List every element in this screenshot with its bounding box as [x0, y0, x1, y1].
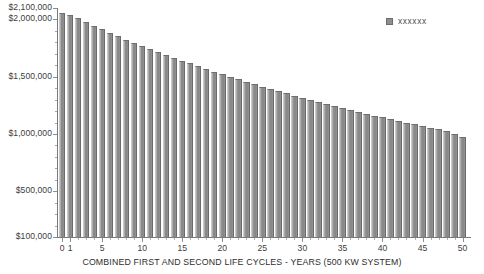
chart-legend: xxxxxx — [386, 16, 427, 26]
x-axis-minor-tick — [230, 238, 231, 240]
y-axis-tick-label: $2,100,000 — [0, 2, 52, 12]
x-axis-minor-tick — [318, 238, 319, 240]
x-axis-minor-tick — [294, 238, 295, 240]
bar — [235, 79, 241, 237]
bar-chart: $2,100,000$2,000,000$1,500,000$1,000,000… — [0, 0, 484, 274]
bar — [259, 87, 265, 237]
bar — [179, 61, 185, 237]
bar — [227, 77, 233, 237]
x-axis-minor-tick — [150, 238, 151, 240]
bar — [131, 43, 137, 237]
y-axis-tick-label: $500,000 — [0, 185, 52, 195]
bar — [195, 66, 201, 237]
bar — [419, 126, 425, 237]
bar — [323, 104, 329, 237]
x-axis-minor-tick — [439, 238, 440, 240]
x-axis-minor-tick — [238, 238, 239, 240]
bar — [443, 131, 449, 237]
bar — [107, 33, 113, 237]
legend-label: xxxxxx — [398, 16, 427, 26]
x-axis-tick-label: 45 — [418, 243, 428, 253]
bar — [211, 72, 217, 237]
bar — [403, 123, 409, 237]
x-axis-minor-tick — [118, 238, 119, 240]
x-axis-minor-tick — [415, 238, 416, 240]
bar — [75, 18, 81, 237]
bar — [435, 129, 441, 237]
bar — [291, 96, 297, 237]
x-axis-tick — [222, 238, 223, 242]
x-axis-tick — [142, 238, 143, 242]
y-axis-tick-label: $100,000 — [0, 231, 52, 241]
x-axis-minor-tick — [310, 238, 311, 240]
x-axis-tick-label: 20 — [218, 243, 228, 253]
bar — [91, 26, 97, 237]
x-axis-minor-tick — [374, 238, 375, 240]
x-axis-tick-label: 1 — [68, 243, 73, 253]
y-axis-tick-label: $1,000,000 — [0, 128, 52, 138]
bar — [67, 15, 73, 237]
bar — [347, 110, 353, 237]
x-axis-tick — [463, 238, 464, 242]
x-axis-minor-tick — [246, 238, 247, 240]
bar — [459, 137, 465, 237]
x-axis-tick-label: 15 — [177, 243, 187, 253]
x-axis-tick — [262, 238, 263, 242]
bar — [371, 116, 377, 237]
x-axis-tick-label: 25 — [258, 243, 268, 253]
bar — [251, 84, 257, 237]
bar — [203, 69, 209, 237]
x-axis-minor-tick — [198, 238, 199, 240]
bar — [387, 119, 393, 237]
bar — [99, 29, 105, 237]
x-axis-tick-label: 35 — [338, 243, 348, 253]
bar — [171, 58, 177, 237]
bar — [307, 100, 313, 237]
bar — [379, 117, 385, 237]
x-axis-minor-tick — [358, 238, 359, 240]
x-axis-minor-tick — [350, 238, 351, 240]
x-axis-minor-tick — [206, 238, 207, 240]
x-axis-tick-label: 40 — [378, 243, 388, 253]
x-axis-minor-tick — [270, 238, 271, 240]
x-axis-minor-tick — [455, 238, 456, 240]
x-axis-minor-tick — [158, 238, 159, 240]
x-axis-tick-label: 0 — [60, 243, 65, 253]
bar — [315, 102, 321, 237]
bar — [299, 98, 305, 237]
x-axis-minor-tick — [126, 238, 127, 240]
bar — [331, 106, 337, 237]
bar — [339, 108, 345, 237]
x-axis-tick — [302, 238, 303, 242]
x-axis-tick — [70, 238, 71, 242]
bar — [283, 93, 289, 237]
x-axis-minor-tick — [334, 238, 335, 240]
x-axis-minor-tick — [447, 238, 448, 240]
bar — [411, 124, 417, 237]
x-axis-minor-tick — [254, 238, 255, 240]
bar — [163, 55, 169, 237]
bar — [243, 82, 249, 237]
x-axis-minor-tick — [278, 238, 279, 240]
bar — [155, 52, 161, 237]
bar — [355, 112, 361, 237]
bar — [147, 49, 153, 237]
x-axis-minor-tick — [326, 238, 327, 240]
x-axis-minor-tick — [134, 238, 135, 240]
x-axis-minor-tick — [286, 238, 287, 240]
bar — [395, 121, 401, 237]
x-axis-minor-tick — [166, 238, 167, 240]
x-axis-title: COMBINED FIRST AND SECOND LIFE CYCLES - … — [0, 257, 484, 267]
bar — [219, 74, 225, 237]
x-axis-tick — [423, 238, 424, 242]
bar — [451, 134, 457, 237]
bar — [123, 40, 129, 238]
x-axis-minor-tick — [86, 238, 87, 240]
x-axis-minor-tick — [94, 238, 95, 240]
bar — [139, 46, 145, 237]
y-axis-tick-label: $2,000,000 — [0, 13, 52, 23]
bar — [59, 13, 65, 237]
x-axis-tick — [182, 238, 183, 242]
x-axis-tick-label: 30 — [298, 243, 308, 253]
bar — [83, 22, 89, 237]
